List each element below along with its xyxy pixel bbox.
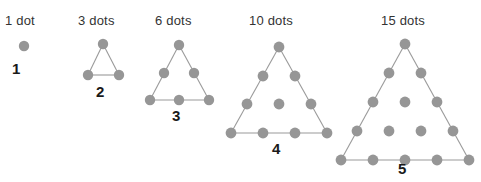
figure-canvas-5 <box>340 30 470 175</box>
dot <box>368 97 379 108</box>
figure-canvas-4 <box>228 30 333 155</box>
dot <box>145 95 155 105</box>
figure-label-1: 1 dot <box>5 13 35 28</box>
figure-index-1: 1 <box>12 60 20 77</box>
dot <box>274 99 285 110</box>
dot <box>189 68 199 78</box>
dot <box>432 155 443 166</box>
dot <box>416 68 427 79</box>
figure-index-2: 2 <box>96 83 104 100</box>
figure-index-3: 3 <box>172 107 180 124</box>
dot <box>204 95 214 105</box>
dot <box>448 126 459 137</box>
dot <box>306 99 317 110</box>
dot <box>174 95 184 105</box>
dot-figure-2 <box>76 30 146 100</box>
dot <box>464 155 475 166</box>
dot <box>416 126 427 137</box>
dot <box>258 128 269 139</box>
figure-label-3: 6 dots <box>155 13 192 28</box>
dot-figure-4 <box>228 30 333 155</box>
triangular-numbers-diagram: 1 dot13 dots26 dots310 dots415 dots5 <box>0 0 481 182</box>
dot <box>98 39 108 49</box>
dot <box>274 42 285 53</box>
dot <box>368 155 379 166</box>
dot <box>400 39 411 50</box>
dot <box>290 128 301 139</box>
figure-canvas-3 <box>144 30 224 125</box>
dot <box>322 128 333 139</box>
figure-index-4: 4 <box>272 140 280 157</box>
dot <box>400 97 411 108</box>
dot <box>242 99 253 110</box>
dot <box>384 126 395 137</box>
dot <box>19 41 29 51</box>
triangle-edge <box>231 47 279 133</box>
triangle-edge <box>279 47 327 133</box>
dot <box>83 70 93 80</box>
dot <box>159 68 169 78</box>
dot <box>432 97 443 108</box>
dot <box>226 128 237 139</box>
figure-label-4: 10 dots <box>249 13 293 28</box>
dot <box>336 155 347 166</box>
dot <box>290 71 301 82</box>
dot-figure-5 <box>340 30 470 175</box>
dot <box>352 126 363 137</box>
figure-canvas-2 <box>76 30 146 100</box>
dot-figure-3 <box>144 30 224 125</box>
dot <box>258 71 269 82</box>
figure-label-5: 15 dots <box>381 13 425 28</box>
figure-index-5: 5 <box>398 160 406 177</box>
triangle-edge <box>103 44 119 75</box>
figure-label-2: 3 dots <box>78 13 115 28</box>
dot <box>384 68 395 79</box>
dot <box>174 40 184 50</box>
dot <box>114 70 124 80</box>
